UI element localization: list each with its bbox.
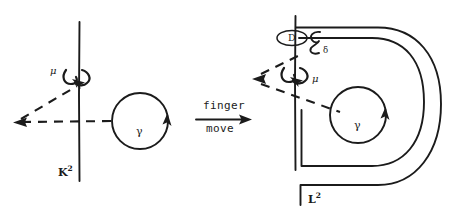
left-gamma-label: γ	[136, 126, 143, 137]
left-panel-group	[13, 22, 172, 181]
right-curve-subscript-label: δ	[323, 46, 328, 55]
right-surface-label: L2	[308, 192, 321, 205]
transition-label-top: finger	[203, 100, 245, 111]
left-surface-label: K2	[58, 165, 73, 178]
left-surface-label-exponent: 2	[68, 164, 73, 173]
right-dashed-arrowhead	[252, 74, 266, 84]
left-dashed-horizontal	[22, 121, 115, 122]
right-gamma-circle	[330, 87, 386, 143]
right-surface-label-exponent: 2	[316, 191, 321, 200]
right-dashed-lower	[261, 84, 340, 112]
left-gamma-circle	[112, 93, 168, 149]
left-surface-label-base: K	[58, 166, 68, 179]
right-panel-group	[252, 16, 441, 205]
right-gamma-label: γ	[354, 120, 361, 131]
right-surface-label-base: L	[308, 193, 316, 206]
left-vertical-axis	[79, 22, 80, 181]
right-inner-tube-curve	[299, 38, 424, 166]
right-c-delta-curve	[310, 32, 320, 54]
right-disk-label: D	[288, 33, 296, 43]
transition-label-bottom: move	[206, 123, 234, 134]
right-mu-label: μ	[312, 74, 319, 84]
left-dashed-diagonal	[21, 86, 77, 119]
left-dashed-arrowhead	[13, 118, 27, 128]
left-mu-label: μ	[50, 66, 57, 76]
figure-canvas: μ γ K2 finger move D δ μ γ L2	[0, 0, 454, 219]
